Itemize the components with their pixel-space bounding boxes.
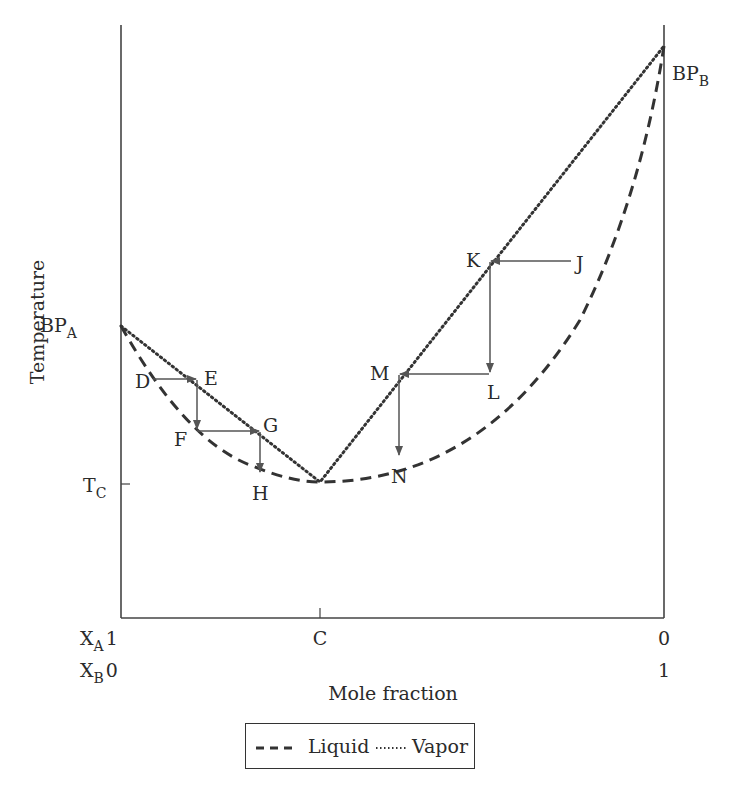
point-e: E [204,367,218,389]
legend: Liquid Vapor [245,723,475,769]
point-n: N [391,465,408,487]
point-j: J [574,252,584,274]
point-d: D [135,370,150,392]
phase-diagram: Temperature BPA TC BPB D E F G H J K L M… [0,0,739,792]
point-h: H [252,482,269,504]
point-f: F [174,428,187,450]
point-l: L [487,381,500,403]
point-m: M [370,362,389,384]
xb-label: XB0 [80,659,118,686]
legend-vapor: Vapor [412,735,468,757]
legend-liquid: Liquid [308,735,369,757]
right-xb-value: 1 [658,659,670,681]
x-axis-label: Mole fraction [328,682,458,704]
point-g: G [263,414,278,436]
bp-b-label: BPB [672,62,709,89]
azeotrope-c-label: C [313,627,328,649]
right-xa-value: 0 [658,627,670,649]
xa-label: XA1 [80,627,118,654]
tc-label: TC [83,474,106,501]
point-k: K [466,249,481,271]
axes [121,25,664,618]
distillation-steps-right [399,261,571,455]
